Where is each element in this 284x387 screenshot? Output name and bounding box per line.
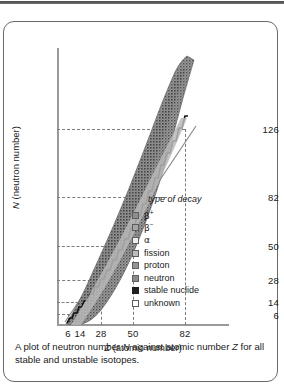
y-tick-6: 6 — [231, 310, 279, 321]
y-tick-50: 50 — [231, 241, 279, 252]
legend-label-beta-minus: β− — [144, 222, 154, 233]
legend-item-beta-plus[interactable]: β+ — [132, 209, 237, 222]
legend-swatch-beta-plus — [132, 212, 139, 219]
x-tick-82: 82 — [177, 328, 193, 339]
legend-item-fission[interactable]: fission — [132, 247, 237, 260]
legend: type of decay β+ β− α fission proton — [132, 194, 237, 310]
legend-item-proton[interactable]: proton — [132, 259, 237, 272]
legend-item-neutron[interactable]: neutron — [132, 272, 237, 285]
legend-swatch-proton — [132, 262, 139, 269]
y-axis-symbol: N — [10, 202, 21, 209]
x-tick-14: 14 — [72, 328, 88, 339]
legend-label-neutron: neutron — [144, 274, 175, 283]
caption-part-2: against atomic number — [130, 341, 232, 352]
legend-item-stable-nuclide[interactable]: stable nuclide — [132, 285, 237, 298]
y-tick-126: 126 — [231, 124, 279, 135]
legend-label-alpha: α — [144, 236, 150, 245]
x-tick-50: 50 — [125, 328, 141, 339]
legend-swatch-beta-minus — [132, 224, 139, 231]
y-tick-28: 28 — [231, 275, 279, 286]
legend-item-alpha[interactable]: α — [132, 234, 237, 247]
legend-swatch-stable-nuclide — [132, 287, 139, 294]
legend-label-stable-nuclide: stable nuclide — [144, 286, 199, 295]
top-divider-rule — [0, 1, 284, 4]
legend-swatch-alpha — [132, 237, 139, 244]
legend-item-unknown[interactable]: unknown — [132, 297, 237, 310]
legend-swatch-unknown — [132, 300, 139, 307]
figure-caption: A plot of neutron number N against atomi… — [15, 340, 265, 366]
x-tick-28: 28 — [93, 328, 109, 339]
legend-swatch-fission — [132, 250, 139, 257]
legend-label-unknown: unknown — [144, 299, 180, 308]
y-tick-82: 82 — [231, 192, 279, 203]
legend-label-beta-plus: β+ — [144, 210, 154, 221]
legend-title: type of decay — [148, 194, 237, 204]
legend-label-fission: fission — [144, 249, 170, 258]
caption-symbol-n: N — [123, 341, 130, 352]
y-axis-title: N (neutron number) — [10, 108, 21, 228]
y-axis-title-rest: (neutron number) — [10, 126, 21, 202]
legend-item-beta-minus[interactable]: β− — [132, 222, 237, 235]
legend-label-proton: proton — [144, 261, 170, 270]
caption-part-1: A plot of neutron number — [15, 341, 123, 352]
y-tick-14: 14 — [231, 297, 279, 308]
figure-panel: 126 82 50 28 14 6 6 14 28 50 82 N (neutr… — [3, 21, 278, 382]
legend-swatch-neutron — [132, 275, 139, 282]
nuclide-chart: 126 82 50 28 14 6 6 14 28 50 82 N (neutr… — [4, 22, 279, 334]
